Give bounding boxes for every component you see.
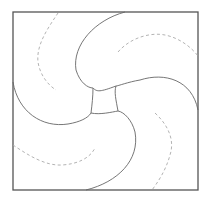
top-left-dash-curve [38,13,58,90]
square-frame [13,12,198,190]
bottom-left-dash-curve [13,145,95,165]
diagram-canvas [0,0,210,203]
right-petal-arc [115,77,198,111]
solid-arcs [13,12,198,190]
top-right-dash-curve [118,34,198,56]
pinwheel-diagram: Pinwheel tessellation of a square [0,0,210,203]
dashed-arcs [13,13,198,190]
bottom-right-dash-curve [152,113,172,190]
top-petal-arc [76,12,125,91]
